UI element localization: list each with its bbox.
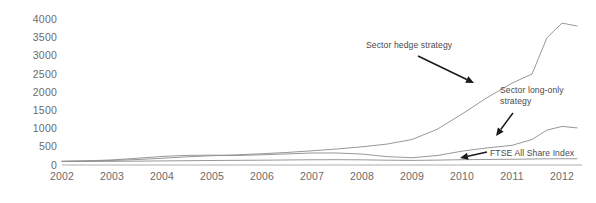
y-axis-tick-label: 3000 <box>33 49 57 61</box>
annotation-label: FTSE All Share Index <box>490 148 575 158</box>
annotation-arrow-shaft <box>501 113 513 130</box>
annotation-arrow-shaft <box>468 152 487 156</box>
annotation-sector-hedge-strategy: Sector hedge strategy <box>366 40 474 83</box>
x-axis-tick-label: 2007 <box>300 170 324 182</box>
y-axis-tick-label: 1000 <box>33 122 57 134</box>
x-axis-tick-label: 2002 <box>50 170 74 182</box>
annotation-ftse-all-share-index: FTSE All Share Index <box>460 148 575 160</box>
x-axis-tick-label: 2004 <box>150 170 174 182</box>
y-axis-tick-label: 3500 <box>33 31 57 43</box>
y-axis-tick-label: 1500 <box>33 104 57 116</box>
x-axis-tick-label: 2006 <box>250 170 274 182</box>
y-axis-tick-label: 2500 <box>33 68 57 80</box>
annotation-arrow-shaft <box>418 56 467 80</box>
y-axis-tick-labels: 05001000150020002500300035004000 <box>33 13 57 171</box>
x-axis-tick-label: 2005 <box>200 170 224 182</box>
line-chart: 05001000150020002500300035004000 2002200… <box>0 0 596 203</box>
annotation-arrow-head <box>496 127 504 136</box>
y-axis-tick-label: 4000 <box>33 13 57 25</box>
x-axis-tick-label: 2008 <box>350 170 374 182</box>
y-axis-tick-label: 2000 <box>33 86 57 98</box>
x-axis-tick-label: 2011 <box>500 170 523 182</box>
x-axis-tick-labels: 2002200320042005200620072008200920102011… <box>50 170 574 182</box>
y-axis-tick-label: 0 <box>51 159 57 171</box>
y-axis-tick-label: 500 <box>39 140 57 152</box>
x-axis-tick-label: 2003 <box>100 170 124 182</box>
x-axis-tick-label: 2012 <box>550 170 574 182</box>
annotation-label: Sector long-only <box>500 85 564 95</box>
x-axis-tick-label: 2010 <box>450 170 474 182</box>
annotation-label: Sector hedge strategy <box>366 40 453 50</box>
x-axis-tick-label: 2009 <box>400 170 424 182</box>
annotation-arrow-head <box>460 153 469 160</box>
chart-container: 05001000150020002500300035004000 2002200… <box>0 0 596 203</box>
annotation-label: strategy <box>500 96 532 106</box>
